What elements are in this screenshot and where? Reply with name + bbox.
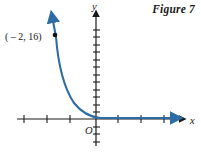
point-marker: [53, 33, 58, 38]
x-axis-label: x: [190, 115, 195, 126]
y-axis: [93, 16, 100, 146]
y-axis-label: y: [92, 1, 97, 12]
figure-container: Figure 7 ( – 2, 16) y x O: [0, 0, 201, 152]
exponential-curve: [56, 37, 172, 118]
point-coordinate-label: ( – 2, 16): [5, 31, 42, 42]
coordinate-plot: [0, 0, 201, 152]
figure-caption: Figure 7: [152, 3, 195, 15]
origin-label: O: [85, 125, 93, 136]
